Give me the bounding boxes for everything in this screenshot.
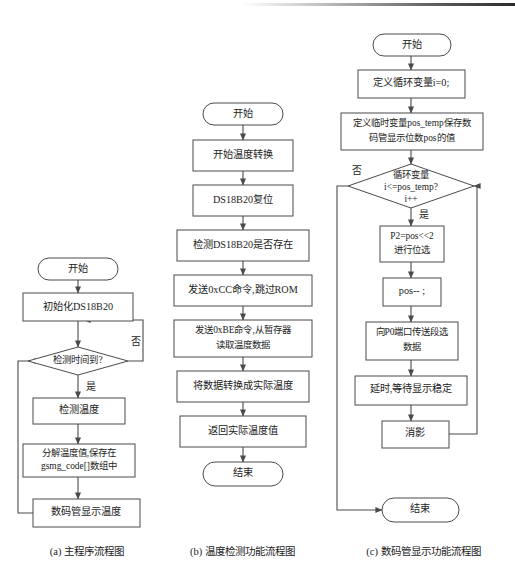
node-c-p2-bit-select-line2: 进行位选 xyxy=(394,244,431,255)
node-c-loop-decision-line3: i++ xyxy=(404,194,417,204)
node-c-define-pos-temp-line1: 定义临时变量pos_temp保存数 xyxy=(353,117,471,128)
node-c-pos-decrement-label: pos-- ; xyxy=(399,285,425,296)
node-c-end-label: 结束 xyxy=(410,502,430,514)
node-c-delay-stable-label: 延时,等待显示稳定 xyxy=(370,382,453,394)
edge-label-c-yes: 是 xyxy=(419,209,429,220)
node-c-loop-decision-line2: i<=pos_temp? xyxy=(384,182,438,192)
caption-flowchart-c: (c) 数码管显示功能流程图 xyxy=(332,543,515,558)
node-c-loop-decision-line1: 循环变量 xyxy=(393,169,429,180)
node-c-start-label: 开始 xyxy=(402,38,422,50)
edge-label-c-no: 否 xyxy=(352,165,362,176)
node-c-p2-bit-select-line1: P2=pos<<2 xyxy=(390,231,434,241)
node-c-define-pos-temp-line2: 码管显示位数pos的值 xyxy=(369,132,454,143)
node-c-send-p0-segment-line1: 向P0端口传送段选 xyxy=(376,326,450,337)
node-c-send-p0-segment-line2: 数据 xyxy=(403,341,421,352)
node-c-define-loop-var-label: 定义循环变量i=0; xyxy=(373,76,450,88)
flowchart-c-digital-tube-display: 开始 定义循环变量i=0; 定义临时变量pos_temp保存数 码管显示位数po… xyxy=(0,0,515,568)
figure-page: 开始 初始化DS18B20 检测时间到? 否 是 检测温度 分解温度值,保存在 … xyxy=(0,0,515,568)
node-c-blanking-label: 消影 xyxy=(405,426,425,438)
caption-flowchart-b: (b) 温度检测功能流程图 xyxy=(150,543,335,558)
caption-flowchart-a: (a) 主程序流程图 xyxy=(2,543,172,558)
